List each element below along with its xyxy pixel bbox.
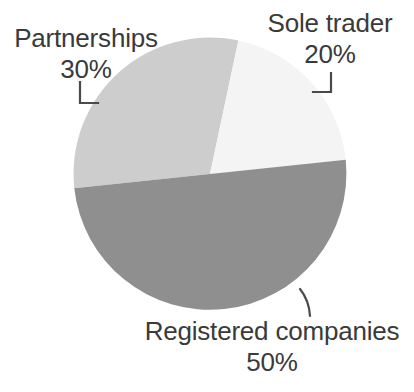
pie-label-partnerships-name: Partnerships <box>12 23 160 54</box>
pie-label-partnerships-value: 30% <box>12 54 160 85</box>
pie-label-sole-trader-name: Sole trader <box>252 8 408 39</box>
leader-line-partnerships <box>80 82 98 103</box>
pie-label-sole-trader: Sole trader 20% <box>252 8 408 69</box>
pie-label-registered-companies-name: Registered companies <box>130 316 414 347</box>
pie-label-partnerships: Partnerships 30% <box>12 23 160 84</box>
pie-label-registered-companies-value: 50% <box>130 347 414 378</box>
pie-label-sole-trader-value: 20% <box>252 39 408 70</box>
leader-line-registered-companies <box>300 289 310 316</box>
pie-label-registered-companies: Registered companies 50% <box>130 316 414 377</box>
pie-chart: Partnerships 30% Sole trader 20% Registe… <box>0 0 414 392</box>
